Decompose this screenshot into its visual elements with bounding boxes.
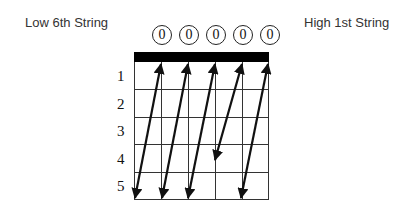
nut <box>134 52 269 62</box>
frets <box>134 90 269 200</box>
fretboard-diagram <box>0 0 412 207</box>
arrow-icon <box>135 64 161 198</box>
arrow-icon <box>215 64 242 160</box>
arrow-icon <box>241 64 268 198</box>
picking-arrows <box>135 64 268 198</box>
arrow-icon <box>162 64 188 198</box>
arrow-icon <box>188 64 215 198</box>
